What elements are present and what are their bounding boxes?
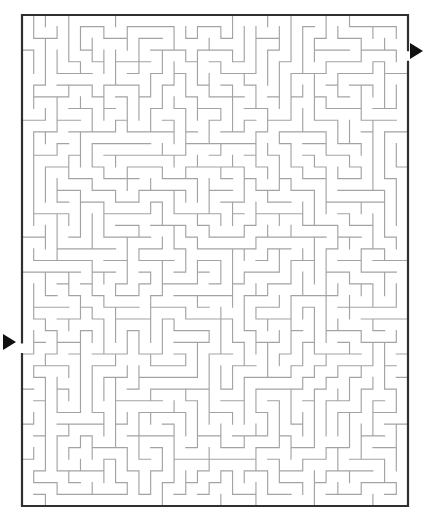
maze-inner-walls [22, 15, 408, 506]
entrance-arrow [3, 334, 16, 350]
maze-markers [3, 43, 423, 350]
maze-canvas [0, 0, 447, 526]
maze-puzzle-page [0, 0, 447, 526]
maze-wall-path [22, 15, 408, 506]
exit-arrow [410, 43, 423, 59]
